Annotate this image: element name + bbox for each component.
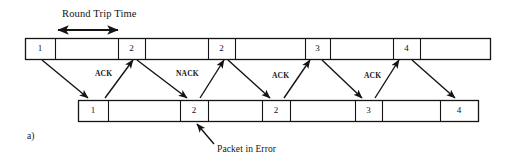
- sender-frame-cell-3: 3: [305, 44, 330, 53]
- receiver-frame-cell-2: 2: [180, 106, 208, 115]
- receiver-frame-cell-4: 4: [440, 106, 478, 115]
- ack-label-1: ACK: [95, 70, 112, 78]
- part-label-a: a): [27, 132, 34, 142]
- nack-label-2: NACK: [176, 70, 199, 78]
- packet-in-error-arrow: [197, 124, 214, 144]
- sender-frame-cell-2: 2: [118, 44, 145, 53]
- ack-label-3: ACK: [272, 72, 289, 80]
- data-arrow-4: [322, 60, 362, 98]
- diagram-canvas: [0, 0, 511, 168]
- sender-timeline-bar: [26, 39, 491, 60]
- data-arrow-1: [42, 60, 88, 98]
- sender-frame-cell-2: 2: [208, 44, 235, 53]
- transmission-arrows: [42, 60, 455, 98]
- sender-frame-cell-1: 1: [25, 44, 55, 53]
- sender-frame-cell-4: 4: [393, 44, 420, 53]
- packet-in-error-pointer: [197, 124, 214, 144]
- data-arrow-5: [412, 60, 455, 98]
- receiver-frame-cell-1: 1: [78, 106, 108, 115]
- data-arrow-2: [137, 60, 187, 98]
- receiver-frame-cell-2: 2: [262, 106, 290, 115]
- arq-protocol-diagram: Round Trip Time a) Packet in Error ACKNA…: [0, 0, 511, 168]
- data-arrow-3: [228, 60, 270, 98]
- ack-label-4: ACK: [364, 72, 381, 80]
- round-trip-time-label: Round Trip Time: [62, 9, 137, 20]
- ack-arrow-1: [105, 60, 133, 98]
- receiver-frame-cell-3: 3: [355, 106, 382, 115]
- nack-arrow-1: [200, 60, 224, 98]
- packet-in-error-label: Packet in Error: [217, 145, 276, 155]
